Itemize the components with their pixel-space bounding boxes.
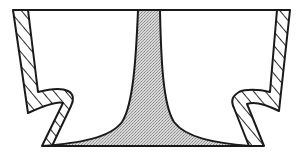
right-wall: [232, 10, 290, 146]
left-wall: [13, 10, 73, 146]
central-stem: [42, 10, 250, 146]
cross-section-diagram: [0, 0, 297, 159]
diagram-canvas: [0, 0, 297, 159]
